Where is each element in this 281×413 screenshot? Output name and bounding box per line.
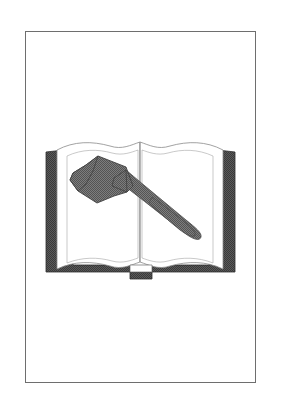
- page-canvas: Open book with gavel: [0, 0, 281, 413]
- image-frame: [25, 31, 256, 383]
